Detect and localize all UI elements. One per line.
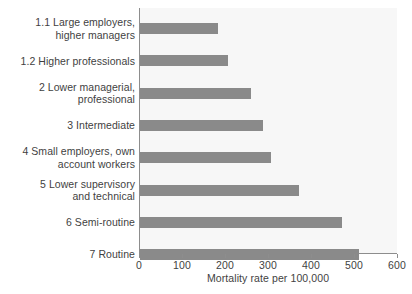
x-axis-tick-label: 100 (173, 259, 191, 271)
category-label: 2 Lower managerial,professional (4, 81, 135, 106)
x-axis-tick (139, 254, 140, 258)
category-label: 1.1 Large employers,higher managers (4, 16, 135, 41)
bar (140, 88, 251, 99)
bar-chart: 1.1 Large employers,higher managers1.2 H… (0, 0, 412, 294)
x-axis-tick (311, 254, 312, 258)
bar (140, 23, 218, 34)
category-label-line: professional (4, 93, 135, 106)
x-axis-tick (268, 254, 269, 258)
category-label-line: 7 Routine (4, 248, 135, 261)
category-label-line: 1.2 Higher professionals (4, 55, 135, 68)
x-axis-tick-label: 300 (259, 259, 277, 271)
x-axis-title: Mortality rate per 100,000 (139, 272, 397, 284)
category-label-line: 6 Semi-routine (4, 216, 135, 229)
category-label: 6 Semi-routine (4, 216, 135, 229)
category-label: 1.2 Higher professionals (4, 55, 135, 68)
bar (140, 55, 228, 66)
category-label: 7 Routine (4, 248, 135, 261)
bar (140, 120, 263, 131)
category-label-line: 1.1 Large employers, (4, 16, 135, 29)
category-label: 5 Lower supervisoryand technical (4, 178, 135, 203)
x-axis-tick-label: 0 (136, 259, 142, 271)
bar (140, 185, 299, 196)
x-axis-tick-label: 500 (345, 259, 363, 271)
x-axis-tick (397, 254, 398, 258)
category-label-line: and technical (4, 190, 135, 203)
category-label-line: 5 Lower supervisory (4, 178, 135, 191)
x-axis-tick-label: 400 (302, 259, 320, 271)
bar (140, 152, 271, 163)
category-label-line: 3 Intermediate (4, 119, 135, 132)
x-axis-tick (182, 254, 183, 258)
category-label-line: account workers (4, 158, 135, 171)
x-axis-tick (354, 254, 355, 258)
x-axis-tick-label: 200 (216, 259, 234, 271)
bar (140, 217, 342, 228)
category-label-line: higher managers (4, 29, 135, 42)
x-axis-tick (225, 254, 226, 258)
category-label: 4 Small employers, ownaccount workers (4, 145, 135, 170)
category-label-line: 2 Lower managerial, (4, 81, 135, 94)
category-label-line: 4 Small employers, own (4, 145, 135, 158)
category-label: 3 Intermediate (4, 119, 135, 132)
x-axis-tick-label: 600 (388, 259, 406, 271)
